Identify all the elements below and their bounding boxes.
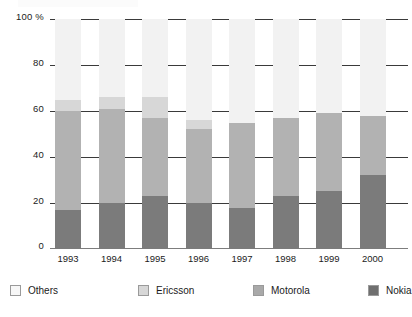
segment-motorola-1999[interactable] [316, 113, 342, 191]
segment-nokia-1996[interactable] [186, 203, 212, 249]
segment-others-1993[interactable] [55, 19, 81, 100]
bar-1999[interactable] [316, 19, 342, 249]
legend-item-motorola[interactable]: Motorola [253, 285, 310, 296]
segment-ericsson-1994[interactable] [99, 97, 125, 109]
stacked-bar-chart: 100 % 80 60 40 20 0 19931994199519961997… [0, 0, 412, 317]
legend-label-ericsson: Ericsson [156, 285, 194, 296]
segment-nokia-1998[interactable] [273, 196, 299, 249]
segment-others-1997[interactable] [229, 19, 255, 123]
segment-others-2000[interactable] [360, 19, 386, 116]
segment-nokia-1997[interactable] [229, 208, 255, 249]
legend-item-ericsson[interactable]: Ericsson [138, 285, 194, 296]
segment-ericsson-1995[interactable] [142, 97, 168, 118]
x-axis-label-2000: 2000 [360, 253, 386, 264]
x-axis-label-1999: 1999 [316, 253, 342, 264]
legend-label-nokia: Nokia [386, 285, 412, 296]
nokia-swatch [368, 285, 379, 296]
y-axis-tick-100: 100 % [16, 11, 44, 22]
segment-nokia-1993[interactable] [55, 210, 81, 249]
chart-legend: OthersEricssonMotorolaNokia [10, 285, 402, 303]
legend-label-motorola: Motorola [271, 285, 310, 296]
bar-1998[interactable] [273, 19, 299, 249]
segment-nokia-1994[interactable] [99, 203, 125, 249]
bar-group [50, 19, 408, 249]
y-axis-tick-80: 80 [33, 57, 44, 68]
segment-nokia-2000[interactable] [360, 175, 386, 249]
segment-nokia-1995[interactable] [142, 196, 168, 249]
ericsson-swatch [138, 285, 149, 296]
segment-motorola-1996[interactable] [186, 129, 212, 203]
x-axis-label-1998: 1998 [273, 253, 299, 264]
scan-top-artifact [18, 0, 138, 7]
segment-others-1999[interactable] [316, 19, 342, 113]
segment-others-1995[interactable] [142, 19, 168, 97]
bar-1993[interactable] [55, 19, 81, 249]
segment-motorola-1994[interactable] [99, 109, 125, 203]
segment-ericsson-1993[interactable] [55, 100, 81, 112]
segment-ericsson-1996[interactable] [186, 120, 212, 129]
bar-1995[interactable] [142, 19, 168, 249]
bar-2000[interactable] [360, 19, 386, 249]
bar-1997[interactable] [229, 19, 255, 249]
motorola-swatch [253, 285, 264, 296]
legend-label-others: Others [28, 285, 58, 296]
segment-nokia-1999[interactable] [316, 191, 342, 249]
plot-area: 100 % 80 60 40 20 0 [50, 19, 408, 249]
x-axis-label-1997: 1997 [229, 253, 255, 264]
segment-others-1996[interactable] [186, 19, 212, 120]
y-axis-tick-0: 0 [39, 240, 44, 251]
x-axis-label-1993: 1993 [55, 253, 81, 264]
y-axis-tick-20: 20 [33, 195, 44, 206]
legend-item-others[interactable]: Others [10, 285, 58, 296]
x-axis-label-1995: 1995 [142, 253, 168, 264]
bar-1996[interactable] [186, 19, 212, 249]
y-axis-tick-40: 40 [33, 149, 44, 160]
legend-item-nokia[interactable]: Nokia [368, 285, 412, 296]
segment-motorola-1998[interactable] [273, 118, 299, 196]
y-axis-tick-60: 60 [33, 103, 44, 114]
others-swatch [10, 285, 21, 296]
x-axis-labels: 19931994199519961997199819992000 [50, 253, 408, 269]
segment-motorola-1993[interactable] [55, 111, 81, 210]
segment-motorola-2000[interactable] [360, 116, 386, 176]
segment-others-1998[interactable] [273, 19, 299, 118]
x-axis-label-1994: 1994 [99, 253, 125, 264]
bar-1994[interactable] [99, 19, 125, 249]
segment-motorola-1997[interactable] [229, 123, 255, 208]
segment-motorola-1995[interactable] [142, 118, 168, 196]
x-axis-label-1996: 1996 [186, 253, 212, 264]
segment-others-1994[interactable] [99, 19, 125, 97]
